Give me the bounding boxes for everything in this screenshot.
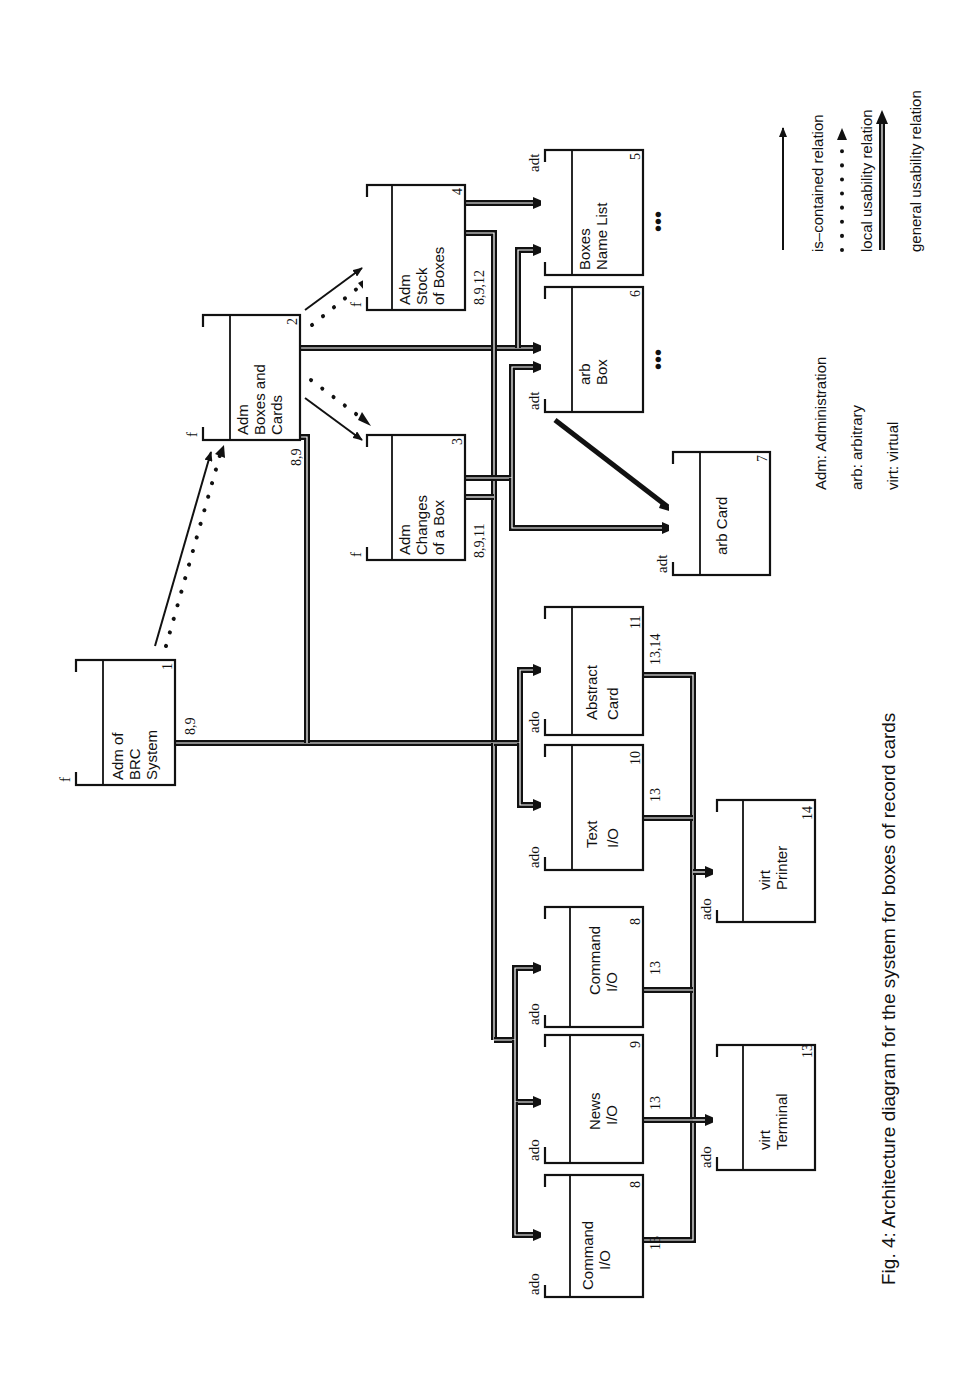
architecture-diagram: f Adm ofBRCSystem 1 8,9 f AdmBoxes andCa…: [0, 0, 961, 1373]
module-13[interactable]: ado virtTerminal 13: [698, 1044, 815, 1170]
module-number: 3: [450, 438, 465, 445]
module-kind: adt: [526, 153, 542, 172]
module-number: 14: [800, 806, 815, 820]
module-kind: adt: [526, 391, 542, 410]
module-9[interactable]: ado NewsI/O 9 13: [526, 1035, 663, 1163]
abbr-adm: Adm: Administration: [812, 357, 829, 490]
module-uses: 13: [648, 961, 663, 975]
module-number: 13: [800, 1044, 815, 1058]
module-number: 10: [628, 751, 643, 765]
module-label: News: [586, 1092, 603, 1130]
module-2[interactable]: f AdmBoxes andCards 2 8,9: [184, 315, 304, 466]
module-uses: 8,9: [289, 449, 304, 467]
module-kind: f: [184, 432, 200, 437]
module-7[interactable]: adt arb Card 7: [654, 452, 770, 575]
module-kind: f: [57, 777, 73, 782]
module-number: 11: [628, 616, 643, 629]
module-kind: f: [348, 552, 364, 557]
abbr-virt: virt: virtual: [884, 422, 901, 490]
module-6[interactable]: adt arbBox 6 •••: [526, 287, 669, 412]
module-kind: ado: [526, 846, 542, 868]
legend-local-usability: local usability relation: [858, 109, 875, 252]
abbr-arb: arb: arbitrary: [848, 404, 865, 490]
module-number: 5: [628, 153, 643, 160]
ellipsis: •••: [647, 349, 669, 370]
module-10[interactable]: ado CommandI/O 8 13: [526, 907, 663, 1027]
module-kind: ado: [526, 1139, 542, 1161]
module-uses: 13,14: [648, 634, 663, 666]
module-label: Adm: [234, 404, 251, 435]
module-label: Boxes: [576, 228, 593, 270]
module-label: arb Card: [713, 497, 730, 555]
module-5[interactable]: adt BoxesName List 5 •••: [526, 150, 669, 275]
module-kind: f: [348, 302, 364, 307]
box-to-card-relation: [555, 420, 668, 507]
module-number: 7: [755, 455, 770, 462]
module-number: 8: [628, 918, 643, 925]
module-kind: ado: [526, 1273, 542, 1295]
module-number: 8: [628, 1181, 643, 1188]
module-11[interactable]: ado TextI/O 10 13: [526, 745, 663, 870]
svg-text:arb Card: arb Card: [713, 497, 730, 555]
module-uses: 13: [648, 788, 663, 802]
module-uses: 8,9,12: [472, 270, 487, 305]
module-number: 2: [285, 318, 300, 325]
legend: is–contained relation local usability re…: [783, 90, 924, 252]
module-label: Text: [583, 820, 600, 848]
module-label: Command: [586, 926, 603, 995]
legend-is-contained: is–contained relation: [809, 114, 826, 252]
figure-caption: Fig. 4: Architecture diagram for the sys…: [878, 713, 899, 1285]
module-kind: ado: [526, 1003, 542, 1025]
module-uses: 13: [648, 1236, 663, 1250]
module-uses: 13: [648, 1096, 663, 1110]
module-label: Abstract: [583, 664, 600, 720]
module-label: Adm: [396, 524, 413, 555]
module-label: virt: [756, 1129, 773, 1150]
abbreviations: Adm: Administration arb: arbitrary virt:…: [812, 357, 901, 490]
module-12[interactable]: ado AbstractCard 11 13,14: [526, 607, 663, 735]
module-label: Adm of: [109, 732, 126, 780]
module-number: 4: [450, 188, 465, 195]
module-number: 6: [628, 290, 643, 297]
module-8[interactable]: ado CommandI/O 8 13: [526, 1175, 663, 1297]
module-kind: ado: [526, 711, 542, 733]
legend-general-usability: general usability relation: [907, 90, 924, 252]
module-uses: 8,9: [183, 718, 198, 736]
module-kind: ado: [698, 898, 714, 920]
module-label: arb: [576, 363, 593, 385]
module-label: virt: [756, 869, 773, 890]
module-kind: adt: [654, 554, 670, 573]
module-uses: 8,9,11: [472, 524, 487, 558]
module-number: 1: [160, 663, 175, 670]
module-kind: ado: [698, 1146, 714, 1168]
module-label: Adm: [396, 274, 413, 305]
ellipsis: •••: [647, 211, 669, 232]
module-14[interactable]: ado virtPrinter 14: [698, 800, 815, 922]
module-label: Command: [579, 1221, 596, 1290]
module-1[interactable]: f Adm ofBRCSystem 1 8,9: [57, 660, 198, 785]
module-number: 9: [628, 1041, 643, 1048]
